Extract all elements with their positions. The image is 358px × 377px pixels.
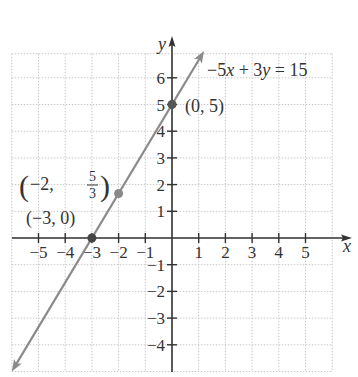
y-tick-label: 5: [157, 96, 166, 115]
point-label-0-5: (0, 5): [185, 96, 224, 117]
x-tick-label: −3: [83, 243, 101, 262]
line-arrow-down-icon: [12, 359, 22, 372]
x-tick-label: 3: [248, 243, 257, 262]
line-arrow-up-icon: [194, 51, 204, 64]
y-tick-label: −1: [147, 256, 165, 275]
y-tick-label: 2: [157, 176, 166, 195]
fraction-numerator: 5: [89, 169, 96, 184]
fraction-denominator: 3: [89, 186, 96, 201]
x-tick-label: 1: [194, 243, 203, 262]
left-paren: (: [19, 169, 29, 203]
y-tick-label: −4: [147, 336, 166, 355]
x-tick-label: −5: [29, 243, 47, 262]
y-tick-label: 4: [157, 122, 166, 141]
point-label-minus3-0: (−3, 0): [26, 208, 75, 229]
y-tick-label: 6: [157, 69, 166, 88]
graph: −5−4−3−2−112345−4−3−2−1123456 y x −5x + …: [0, 0, 358, 377]
point-marker: [87, 234, 96, 243]
equation-label: −5x + 3y = 15: [207, 60, 307, 80]
point-label-x: −2,: [30, 174, 54, 194]
x-tick-label: 5: [301, 243, 310, 262]
x-tick-label: 2: [221, 243, 230, 262]
y-tick-label: 3: [157, 149, 166, 168]
point-marker: [114, 189, 123, 198]
point-label-minus2-five-thirds: ( −2, 5 3 ): [19, 169, 110, 203]
y-axis-label: y: [156, 34, 166, 54]
x-tick-label: −4: [56, 243, 75, 262]
x-tick-label: −2: [110, 243, 128, 262]
y-tick-label: −3: [147, 309, 165, 328]
y-tick-label: −2: [147, 282, 165, 301]
x-axis-label: x: [342, 236, 351, 256]
right-paren: ): [100, 169, 110, 203]
point-marker: [168, 100, 177, 109]
x-tick-label: 4: [275, 243, 284, 262]
y-tick-label: 1: [157, 202, 166, 221]
